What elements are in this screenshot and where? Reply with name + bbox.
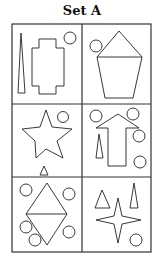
circle-shape xyxy=(58,112,69,123)
circle-shape xyxy=(29,234,41,246)
shape-grid-figure xyxy=(0,0,161,260)
cell-3 xyxy=(22,110,72,175)
cell-6 xyxy=(95,183,142,246)
five-point-star-shape xyxy=(22,110,72,158)
circle-shape xyxy=(63,188,75,200)
cell-1-circles xyxy=(64,32,76,44)
circle-shape xyxy=(90,40,102,52)
triangle-shape xyxy=(95,190,110,208)
circle-shape xyxy=(127,108,139,120)
circle-shape xyxy=(133,130,145,142)
circle-shape xyxy=(20,221,32,233)
circle-shape xyxy=(64,32,76,44)
thin-triangle-shape xyxy=(130,183,138,208)
cross-polygon-shape xyxy=(32,39,64,94)
circle-shape xyxy=(63,226,75,238)
circle-shape xyxy=(20,184,32,196)
cell-2 xyxy=(90,31,142,98)
cell-6-circles xyxy=(130,234,142,246)
cell-3-circles xyxy=(58,112,69,123)
circle-shape xyxy=(90,110,102,122)
circle-shape xyxy=(130,234,142,246)
circle-shape xyxy=(134,156,146,168)
cell-1 xyxy=(18,32,76,94)
thin-triangle-shape xyxy=(18,33,25,93)
four-point-star-shape xyxy=(96,198,141,243)
cell-5 xyxy=(20,183,75,246)
cell-2-circles xyxy=(90,40,102,52)
thin-triangle-shape xyxy=(96,134,103,158)
house-pentagon-shape xyxy=(97,31,142,98)
small-triangle-shape xyxy=(40,166,48,175)
cell-4 xyxy=(90,108,146,168)
